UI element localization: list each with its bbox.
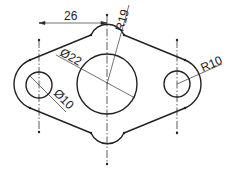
dimension-d22-label: Ø22	[58, 45, 85, 68]
dimension-d10-label: Ø10	[51, 86, 77, 112]
part-outline	[14, 24, 201, 144]
technical-drawing: 26 R19 Ø22 Ø10 R10	[0, 0, 229, 177]
dimension-r10-label: R10	[199, 53, 225, 75]
dimension-26-label: 26	[64, 9, 78, 23]
dimension-r19-label: R19	[112, 7, 132, 32]
